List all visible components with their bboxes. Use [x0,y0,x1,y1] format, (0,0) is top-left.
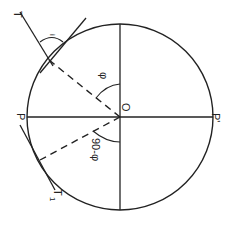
dashed-radius-lower [40,117,120,160]
label-90-minus-phi: 90-φ [90,138,102,161]
label-P: P [15,113,27,120]
label-T: T [12,11,24,18]
line-T [20,12,53,66]
angle-arc-phi [96,84,120,98]
tangent-upper [40,18,86,73]
label-i: i [48,34,57,36]
dashed-radius-upper [49,60,120,117]
label-P-prime: P' [210,113,222,122]
label-phi: φ [98,72,110,79]
angle-arc-i [40,38,63,43]
label-T1-subscript: 1 [48,197,57,202]
tangent-T1 [20,125,55,190]
label-O: O [120,103,132,112]
refraction-circle-diagram: T i φ O P P' 90-φ T 1 [0,0,230,226]
label-T1: T [52,189,64,196]
